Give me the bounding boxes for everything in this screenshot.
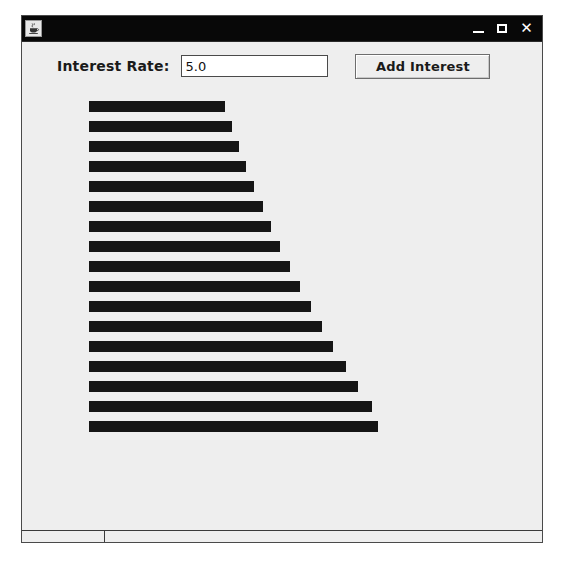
chart-bar: [89, 281, 300, 292]
chart-bar: [89, 301, 311, 312]
minimize-icon[interactable]: [472, 21, 485, 36]
window-controls: ✕: [472, 21, 540, 36]
chart-bar: [89, 221, 271, 232]
chart-bar: [89, 201, 263, 212]
toolbar: Interest Rate: Add Interest: [22, 42, 542, 90]
maximize-icon[interactable]: [496, 21, 509, 36]
chart-bar: [89, 121, 232, 132]
chart-bar: [89, 341, 333, 352]
interest-bar-chart: [22, 90, 542, 530]
application-window: ✕ Interest Rate: Add Interest: [21, 15, 543, 543]
chart-bar: [89, 141, 239, 152]
chart-bar: [89, 361, 346, 372]
window-body: Interest Rate: Add Interest: [22, 41, 542, 542]
interest-rate-label: Interest Rate:: [57, 58, 169, 74]
chart-bar: [89, 321, 322, 332]
title-bar[interactable]: ✕: [22, 16, 542, 41]
chart-bar: [89, 381, 358, 392]
chart-bar: [89, 261, 290, 272]
interest-rate-input[interactable]: [181, 55, 328, 77]
chart-bar: [89, 161, 246, 172]
status-cell-left: [22, 531, 105, 542]
chart-bar: [89, 421, 378, 432]
add-interest-button[interactable]: Add Interest: [355, 54, 490, 79]
chart-bar: [89, 101, 225, 112]
chart-bar: [89, 241, 280, 252]
java-coffee-cup-icon[interactable]: [25, 20, 42, 37]
chart-bar: [89, 181, 254, 192]
status-cell-right: [105, 531, 542, 542]
chart-bar: [89, 401, 372, 412]
close-icon[interactable]: ✕: [520, 21, 533, 36]
status-strip: [22, 530, 542, 542]
